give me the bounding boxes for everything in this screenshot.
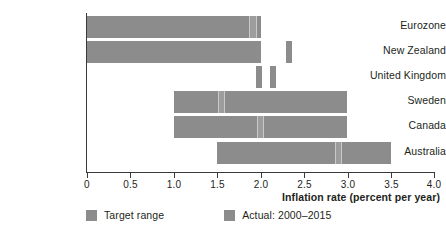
x-tick-label-0: 0 [84,179,90,190]
x-tick-label-1.0: 1.0 [167,179,182,190]
target-range-bar-united-kingdom [256,66,262,88]
actual-marker-canada [257,116,264,138]
legend-label-target-range: Target range [104,209,164,221]
x-tick-label-3.0: 3.0 [341,179,356,190]
actual-marker-new-zealand [286,41,292,63]
actual-marker-australia [335,142,342,164]
actual-marker-united-kingdom [270,66,276,88]
x-tick-label-2.5: 2.5 [297,179,312,190]
x-tick-label-1.5: 1.5 [210,179,225,190]
chart-legend: Target range Actual: 2000–2015 [86,209,331,221]
target-range-bar-australia [217,142,391,164]
x-tick-2.5 [304,173,305,178]
target-range-bar-new-zealand [87,41,261,63]
legend-item-actual: Actual: 2000–2015 [224,209,331,221]
x-tick-4.0 [434,173,435,178]
x-tick-1.5 [217,173,218,178]
x-tick-0 [87,173,88,178]
x-tick-label-4.0: 4.0 [427,179,442,190]
x-axis-title: Inflation rate (percent per year) [282,191,440,203]
x-tick-3.5 [391,173,392,178]
x-tick-label-0.5: 0.5 [123,179,138,190]
x-tick-0.5 [130,173,131,178]
legend-swatch-icon-target-range [86,210,97,221]
legend-swatch-icon-actual [224,210,235,221]
x-tick-2.0 [261,173,262,178]
target-range-bar-sweden [174,91,348,113]
inflation-target-chart: Eurozone New Zealand United Kingdom Swed… [0,0,446,234]
x-tick-label-2.0: 2.0 [254,179,269,190]
legend-item-target-range: Target range [86,209,164,221]
actual-marker-eurozone [249,16,257,38]
plot-area [87,14,434,172]
x-tick-3.0 [348,173,349,178]
legend-label-actual: Actual: 2000–2015 [242,209,331,221]
actual-marker-sweden [218,91,225,113]
target-range-bar-eurozone [87,16,261,38]
x-tick-1.0 [174,173,175,178]
x-tick-label-3.5: 3.5 [384,179,399,190]
